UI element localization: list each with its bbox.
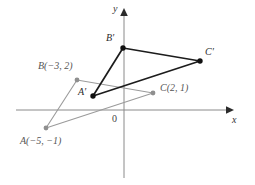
- x-axis-arrowhead: [226, 106, 234, 114]
- coordinate-plane-svg: [0, 0, 255, 185]
- vertex-B-point: [75, 78, 80, 83]
- vertex-C-prime-label: C′: [205, 47, 214, 57]
- x-axis: [16, 106, 234, 114]
- y-axis-label: y: [113, 4, 117, 14]
- vertex-C-prime-point: [197, 58, 202, 63]
- vertex-B-prime-label: B′: [106, 33, 114, 43]
- y-axis: [120, 8, 128, 178]
- vertex-B-label: B(−3, 2): [38, 61, 73, 71]
- x-axis-label: x: [232, 115, 236, 125]
- vertex-C-label: C(2, 1): [160, 83, 188, 93]
- vertex-A-prime-label: A′: [78, 87, 86, 97]
- geometry-figure: A(−5, −1) B(−3, 2) C(2, 1) A′ B′ C′ y x …: [0, 0, 255, 185]
- y-axis-arrowhead: [120, 8, 128, 16]
- vertex-A-prime-point: [90, 93, 95, 98]
- vertex-A-point: [44, 126, 49, 131]
- vertex-B-prime-point: [120, 45, 125, 50]
- vertex-A-label: A(−5, −1): [20, 136, 61, 146]
- origin-label: 0: [112, 114, 117, 124]
- vertex-C-point: [151, 91, 156, 96]
